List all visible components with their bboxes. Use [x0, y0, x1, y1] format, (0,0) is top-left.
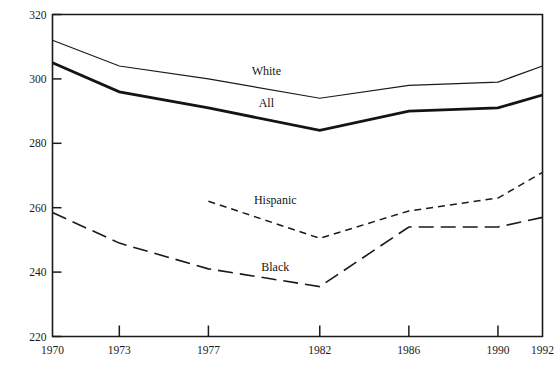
series-label-black: Black	[261, 260, 289, 274]
chart-page: 320300280260240220 197019731977198219861…	[0, 0, 557, 366]
series-line-all	[53, 63, 543, 131]
y-tick-label-240: 240	[29, 266, 47, 278]
x-tick-label-1982: 1982	[308, 344, 331, 356]
x-tick-label-1986: 1986	[397, 344, 420, 356]
y-tick-label-300: 300	[29, 73, 47, 85]
series-lines	[53, 40, 543, 286]
y-tick-label-280: 280	[29, 137, 47, 149]
y-tick-label-320: 320	[29, 9, 47, 21]
series-label-all: All	[259, 96, 275, 110]
x-axis-ticks: 1970197319771982198619901992	[41, 326, 554, 356]
series-line-white	[53, 40, 543, 98]
series-line-black	[53, 213, 543, 287]
x-tick-label-1970: 1970	[41, 344, 64, 356]
axis-frame	[53, 15, 543, 337]
series-label-hispanic: Hispanic	[254, 193, 297, 207]
line-chart: 320300280260240220 197019731977198219861…	[0, 0, 557, 366]
x-tick-label-1977: 1977	[197, 344, 220, 356]
y-tick-label-260: 260	[29, 202, 47, 214]
plot-frame	[53, 15, 543, 337]
x-tick-label-1992: 1992	[531, 344, 554, 356]
y-axis-ticks: 320300280260240220	[29, 9, 61, 343]
series-annotations: WhiteAllHispanicBlack	[252, 64, 297, 274]
x-tick-label-1973: 1973	[108, 344, 131, 356]
series-label-white: White	[252, 64, 281, 78]
x-tick-label-1990: 1990	[486, 344, 509, 356]
y-tick-label-220: 220	[29, 331, 47, 343]
